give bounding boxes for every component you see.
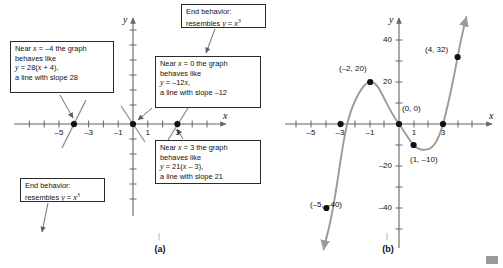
panel-b-point-0-0 bbox=[396, 121, 402, 127]
panel-b-xtick-1: 1 bbox=[404, 128, 424, 137]
panel-b-point-3-zero bbox=[440, 121, 446, 127]
leader-near-0 bbox=[138, 108, 152, 120]
panel-b-label-4-32: (4, 32) bbox=[425, 45, 448, 54]
callout-end-behavior-bottom: End behavior: resembles y = x3 bbox=[20, 178, 105, 202]
callout-0-line4: a line with slope –12 bbox=[160, 88, 257, 98]
panel-b-ytick-neg40: –40 bbox=[368, 203, 392, 212]
panel-a-x-axis-label: x bbox=[223, 110, 227, 121]
panel-b-caption: (b) bbox=[368, 244, 408, 254]
panel-b-point-1-neg10 bbox=[411, 142, 417, 148]
panel-a-point-0 bbox=[130, 121, 136, 127]
panel-b-curve-tail bbox=[324, 238, 327, 250]
callout-near-x-3: Near x = 3 the graph behaves like y = 21… bbox=[155, 140, 261, 184]
callout-neg4-line2: behaves like bbox=[15, 54, 110, 64]
callout-0-line1: Near x = 0 the graph bbox=[160, 59, 257, 69]
panel-b-xtick-neg1: –1 bbox=[360, 128, 380, 137]
callout-end-top-line1: End behavior: bbox=[186, 7, 262, 17]
panel-b-y-axis-label: y bbox=[389, 14, 393, 25]
callout-near-x-neg4: Near x = –4 the graph behaves like y = 2… bbox=[10, 41, 114, 93]
panel-b-xtick-neg3: –3 bbox=[330, 128, 350, 137]
callout-neg4-line1: Near x = –4 the graph bbox=[15, 44, 110, 54]
panel-b-label-0-0: (0, 0) bbox=[402, 104, 421, 113]
callout-near-x-0: Near x = 0 the graph behaves like y = –1… bbox=[155, 56, 261, 108]
panel-b-label-neg2-20: (–2, 20) bbox=[339, 64, 367, 73]
leader-end-top bbox=[206, 29, 215, 53]
panel-b-point-neg4-zero bbox=[338, 121, 344, 127]
corner-artifact bbox=[486, 256, 498, 264]
panel-b-label-neg5-neg40: (–5, –40) bbox=[310, 200, 342, 209]
panel-a-xtick-3: 3 bbox=[167, 128, 187, 137]
panel-a-xtick-neg5: –5 bbox=[49, 128, 69, 137]
panel-b-xtick-3: 3 bbox=[433, 128, 453, 137]
callout-end-bot-line1: End behavior: bbox=[25, 181, 101, 191]
panel-b-xtick-neg5: –5 bbox=[301, 128, 321, 137]
callout-3-line2: behaves like bbox=[160, 153, 257, 163]
callout-neg4-line4: a line with slope 28 bbox=[15, 73, 110, 83]
callout-0-line2: behaves like bbox=[160, 69, 257, 79]
panel-b-ytick-neg20: –20 bbox=[368, 161, 392, 170]
callout-3-line4: a line with slope 21 bbox=[160, 172, 257, 182]
panel-a-xtick-neg1: –1 bbox=[108, 128, 128, 137]
callout-3-line1: Near x = 3 the graph bbox=[160, 143, 257, 153]
callout-end-bot-line2: resembles y = x3 bbox=[25, 191, 101, 203]
callout-neg4-line3: y = 28(x + 4), bbox=[15, 63, 110, 73]
leader-end-bottom bbox=[42, 203, 48, 232]
figure-container: x y –5 –3 –1 1 3 x y –5 –3 –1 1 3 40 20 … bbox=[0, 0, 503, 268]
callout-0-line3: y = –12x, bbox=[160, 78, 257, 88]
panel-b-ytick-20: 20 bbox=[372, 77, 392, 86]
panel-b-x-axis-label: x bbox=[489, 110, 493, 121]
callout-end-top-line2: resembles y = x3 bbox=[186, 17, 262, 29]
panel-b-label-1-neg10: (1, –10) bbox=[410, 155, 438, 164]
leader-near-neg4 bbox=[60, 95, 73, 118]
panel-a-xtick-1: 1 bbox=[138, 128, 158, 137]
panel-a-caption: (a) bbox=[140, 244, 180, 254]
panel-a-y-axis-label: y bbox=[123, 14, 127, 25]
callout-3-line3: y = 21(x – 3), bbox=[160, 162, 257, 172]
panel-b-point-4-32 bbox=[455, 54, 461, 60]
panel-a-point-3 bbox=[174, 121, 180, 127]
panel-a-point-neg4 bbox=[71, 121, 77, 127]
panel-a-xtick-neg3: –3 bbox=[79, 128, 99, 137]
callout-end-behavior-top: End behavior: resembles y = x3 bbox=[181, 4, 266, 28]
panel-b-ytick-40: 40 bbox=[372, 35, 392, 44]
